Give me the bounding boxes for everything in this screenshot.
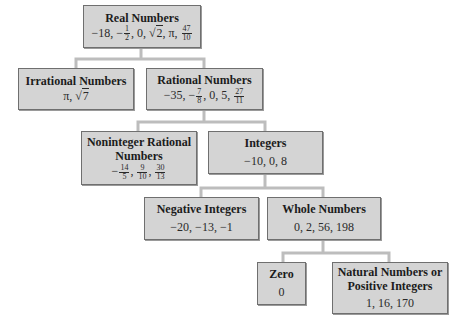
node-negative-integers: Negative Integers −20, −13, −1	[144, 197, 259, 240]
node-values: π, √7	[63, 88, 89, 104]
fraction: 145	[119, 164, 129, 181]
node-title-line1: Natural Numbers or	[338, 265, 443, 279]
node-title: Zero	[269, 267, 293, 281]
node-title: Negative Integers	[157, 202, 247, 216]
fraction: 78	[196, 88, 202, 105]
fraction: 12	[124, 25, 130, 42]
node-values: 1, 16, 170	[366, 295, 414, 311]
node-values: 0	[279, 284, 285, 300]
node-values: −35, −78, 0, 5, 2711	[164, 87, 246, 105]
node-irrational-numbers: Irrational Numbers π, √7	[18, 68, 134, 110]
node-integers: Integers −10, 0, 8	[208, 131, 323, 174]
node-rational-numbers: Rational Numbers −35, −78, 0, 5, 2711	[146, 68, 263, 110]
node-title-line2: Numbers	[115, 149, 162, 163]
node-real-numbers: Real Numbers −18, −12, 0, √2, π, 4710	[83, 5, 201, 48]
node-values: −10, 0, 8	[244, 153, 287, 169]
node-natural-numbers: Natural Numbers or Positive Integers 1, …	[332, 262, 448, 314]
node-title-line1: Noninteger Rational	[87, 135, 191, 149]
node-values: 0, 2, 56, 198	[294, 219, 354, 235]
node-values: −18, −12, 0, √2, π, 4710	[91, 25, 192, 43]
node-noninteger-rational-numbers: Noninteger Rational Numbers −145, 910, 3…	[81, 131, 197, 185]
fraction: 2711	[234, 88, 244, 105]
node-title: Whole Numbers	[282, 202, 366, 216]
node-title: Rational Numbers	[157, 73, 251, 87]
fraction: 4710	[182, 25, 192, 42]
node-whole-numbers: Whole Numbers 0, 2, 56, 198	[267, 197, 381, 240]
fraction: 910	[137, 164, 147, 181]
node-title-line2: Positive Integers	[348, 279, 433, 293]
square-root: √7	[75, 88, 89, 104]
node-values: −20, −13, −1	[170, 219, 232, 235]
node-title: Irrational Numbers	[26, 74, 127, 88]
square-root: √2	[149, 25, 163, 41]
fraction: 3013	[155, 164, 165, 181]
node-title: Real Numbers	[105, 11, 179, 25]
node-title: Integers	[245, 136, 287, 150]
node-zero: Zero 0	[257, 262, 306, 305]
node-values: −145, 910, 3013	[112, 163, 167, 181]
